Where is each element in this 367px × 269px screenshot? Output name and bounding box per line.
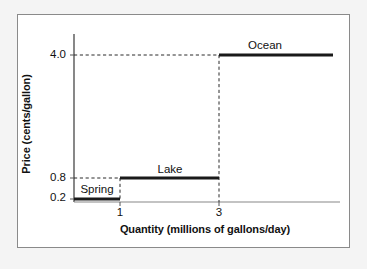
series-label-spring: Spring — [72, 183, 122, 195]
series-label-lake: Lake — [145, 163, 195, 175]
y-tick-label-0.2: 0.2 — [26, 191, 66, 203]
y-tick-label-4.0: 4.0 — [26, 48, 66, 60]
figure-container: Price (cents/gallon) Quantity (millions … — [0, 0, 367, 269]
series-label-ocean: Ocean — [235, 39, 295, 51]
x-tick-label-1: 1 — [108, 206, 132, 218]
x-tick-label-3: 3 — [207, 206, 231, 218]
y-tick-label-0.8: 0.8 — [26, 171, 66, 183]
x-axis-title: Quantity (millions of gallons/day) — [60, 223, 350, 235]
chart-area: Price (cents/gallon) Quantity (millions … — [0, 0, 367, 269]
